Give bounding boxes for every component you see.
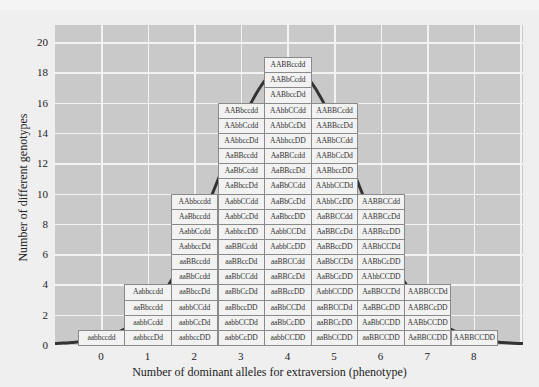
y-tick-label: 8	[26, 218, 48, 230]
genotype-cell: AAbbCcDD	[311, 194, 359, 210]
x-tick-label: 0	[91, 350, 111, 362]
x-axis-label: Number of dominant alleles for extravers…	[0, 365, 539, 380]
genotype-cell: AAbbCCdd	[264, 103, 312, 119]
y-tick-label: 4	[26, 278, 48, 290]
genotype-cell: AaBbCcdd	[218, 163, 266, 179]
genotype-cell: AABbccDD	[311, 163, 359, 179]
genotype-cell: AabbccDd	[171, 239, 219, 255]
genotype-cell: AAbbCCDd	[311, 178, 359, 194]
x-tick-label: 2	[184, 350, 204, 362]
y-tick-label: 20	[26, 36, 48, 48]
x-tick-label: 1	[138, 350, 158, 362]
x-tick-label: 3	[231, 350, 251, 362]
y-tick-label: 10	[26, 188, 48, 200]
genotype-cell: AABbCcdd	[264, 72, 312, 88]
genotype-cell: AabbCCdd	[218, 194, 266, 210]
genotype-cell: aaBbCcdd	[171, 269, 219, 285]
genotype-cell: AABBCCDd	[404, 284, 452, 300]
y-tick-label: 6	[26, 248, 48, 260]
genotype-cell: AAbbCcDd	[264, 118, 312, 134]
genotype-cell: AabbCcDD	[264, 239, 312, 255]
x-tick-label: 5	[324, 350, 344, 362]
genotype-cell: AaBBCCDD	[404, 330, 452, 346]
genotype-cell: AaBBCCDd	[357, 284, 405, 300]
genotype-cell: AABbCcDd	[311, 148, 359, 164]
genotype-cell: AaBBccDd	[264, 163, 312, 179]
genotype-cell: AAbbccdd	[171, 194, 219, 210]
genotype-cell: AABbccDd	[264, 87, 312, 103]
genotype-cell: AaBBCcDd	[311, 224, 359, 240]
genotype-cell: AABbCCDD	[404, 315, 452, 331]
y-tick-label: 2	[26, 309, 48, 321]
genotype-cell: aaBbCcDD	[264, 315, 312, 331]
genotype-cell: aaBbccDd	[171, 284, 219, 300]
y-tick-label: 12	[26, 157, 48, 169]
genotype-cell: aaBBCCDD	[357, 330, 405, 346]
genotype-cell: AaBbccDd	[218, 178, 266, 194]
genotype-cell: AaBbCCDD	[357, 315, 405, 331]
genotype-cell: AABbccdd	[218, 103, 266, 119]
genotype-cell: AaBbCCDd	[311, 254, 359, 270]
genotype-cell: AAbbCCDD	[357, 269, 405, 285]
genotype-cell: AaBbCcDd	[264, 194, 312, 210]
genotype-cell: AABBCcDd	[357, 209, 405, 225]
genotype-cell: AABBccDD	[357, 224, 405, 240]
genotype-cell: AABBCCDD	[451, 330, 499, 346]
y-tick-label: 14	[26, 127, 48, 139]
genotype-cell: aaBBCcdd	[218, 239, 266, 255]
y-tick-label: 18	[26, 66, 48, 78]
genotype-cell: aabbCCDd	[218, 315, 266, 331]
genotype-cell: AaBBCcdd	[264, 148, 312, 164]
genotype-cell: AABBCcdd	[311, 103, 359, 119]
genotype-cell: AaBbCCdd	[264, 178, 312, 194]
genotype-cell: AAbbccDD	[264, 133, 312, 149]
genotype-cell: aabbccdd	[78, 330, 126, 346]
genotype-cell: aabbCcdd	[124, 315, 172, 331]
genotype-cell: AaBbCcDD	[311, 269, 359, 285]
genotype-cell: aabbCcDd	[171, 315, 219, 331]
genotype-cell: aaBbCCDD	[311, 330, 359, 346]
genotype-cell: AAbbCcdd	[218, 118, 266, 134]
genotype-cell: aaBBccdd	[171, 254, 219, 270]
x-tick-label: 8	[464, 350, 484, 362]
genotype-cell: aaBbCCdd	[218, 269, 266, 285]
genotype-cell: AABbCCDd	[357, 239, 405, 255]
genotype-cell: aaBBCcDD	[311, 315, 359, 331]
x-tick-label: 7	[417, 350, 437, 362]
genotype-cell: AABBCCdd	[357, 194, 405, 210]
genotype-cell: aaBBCCdd	[264, 254, 312, 270]
genotype-cell: aaBbCcDd	[218, 284, 266, 300]
genotype-cell: aabbCCdd	[171, 300, 219, 316]
genotype-cell: AabbCCDd	[264, 224, 312, 240]
genotype-cell: aaBBccDd	[218, 254, 266, 270]
genotype-cell: AabbCCDD	[311, 284, 359, 300]
genotype-cell: AabbccDD	[218, 224, 266, 240]
genotype-cell: aaBBccDD	[264, 284, 312, 300]
genotype-cell: aaBbccDD	[218, 300, 266, 316]
y-tick-label: 16	[26, 97, 48, 109]
x-tick-label: 4	[277, 350, 297, 362]
genotype-cell: aabbccDd	[124, 330, 172, 346]
genotype-cell: aaBbCCDd	[264, 300, 312, 316]
genotype-cell: AABbCCdd	[311, 133, 359, 149]
genotype-cell: AaBBCcDD	[357, 300, 405, 316]
genotype-cell: aabbCCDD	[264, 330, 312, 346]
genotype-cell: AABBccDd	[311, 118, 359, 134]
genotype-cell: AAbbccDd	[218, 133, 266, 149]
genotype-cell: aabbccDD	[171, 330, 219, 346]
genotype-cell: AabbCcdd	[171, 224, 219, 240]
genotype-cell: AaBbccDD	[264, 209, 312, 225]
genotype-cell: Aabbccdd	[124, 284, 172, 300]
genotype-cell: aaBBCCDd	[311, 300, 359, 316]
genotype-cell: AABbCcDD	[357, 254, 405, 270]
genotype-cell: AaBBccdd	[218, 148, 266, 164]
genotype-cell: AaBBCCdd	[311, 209, 359, 225]
genotype-cell: AaBbccdd	[171, 209, 219, 225]
x-tick-label: 6	[371, 350, 391, 362]
genotype-cell: aabbCcDD	[218, 330, 266, 346]
genotype-cell: aaBbccdd	[124, 300, 172, 316]
genotype-cell: AABBccdd	[264, 57, 312, 73]
genotype-cell: AaBBccDD	[311, 239, 359, 255]
genotype-cell: AabbCcDd	[218, 209, 266, 225]
genotype-cell: aaBBCcDd	[264, 269, 312, 285]
